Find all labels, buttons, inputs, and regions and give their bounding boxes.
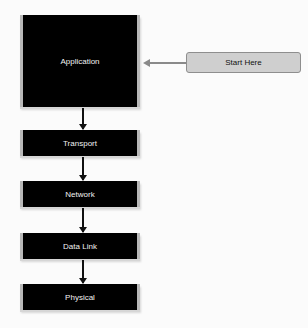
arrow-down-icon: [82, 157, 84, 180]
layer-label: Transport: [63, 139, 97, 148]
arrow-down-icon: [82, 208, 84, 232]
start-here-label: Start Here: [225, 58, 261, 67]
layer-label: Application: [60, 57, 99, 66]
arrow-left-icon: [150, 62, 186, 64]
arrow-down-icon: [82, 108, 84, 129]
arrow-down-icon: [82, 260, 84, 283]
layer-application: Application: [20, 15, 140, 107]
layer-data-link: Data Link: [20, 233, 140, 259]
layer-network: Network: [20, 181, 140, 207]
layer-label: Data Link: [63, 242, 97, 251]
layer-label: Network: [65, 190, 94, 199]
layer-physical: Physical: [20, 284, 140, 310]
layer-label: Physical: [65, 293, 95, 302]
layer-transport: Transport: [20, 130, 140, 156]
start-here-box: Start Here: [186, 52, 301, 73]
